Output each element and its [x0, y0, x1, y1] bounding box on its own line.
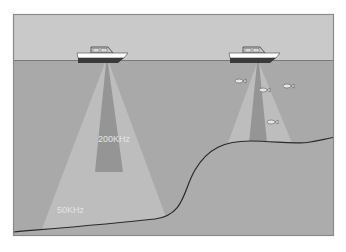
narrow-beam-label: 200KHz: [98, 134, 130, 144]
sonar-diagram: [0, 0, 346, 252]
wide-beam-label: 50KHz: [57, 205, 84, 215]
sky: [13, 14, 334, 61]
